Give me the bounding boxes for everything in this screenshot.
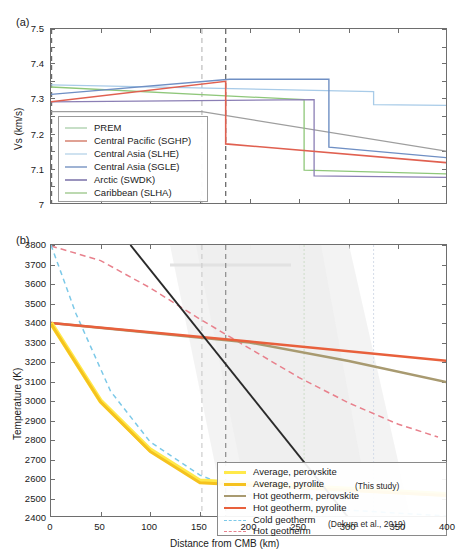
panel-a-ytick-7p2: 7.2 [8, 128, 44, 139]
panel-a-ytick-7: 7 [8, 199, 44, 210]
panel-a-ytick-7p1: 7.1 [8, 163, 44, 174]
legend-b-item-hot-geotherm-pyrolite: Hot geotherm, pyrolite [224, 502, 346, 514]
figure-root: (a) Vs (km/s) 7 7.1 7.2 7.3 7.4 7.5 [0, 0, 457, 557]
panel-b-ytick-3600: 3600 [4, 278, 46, 289]
panel-a-ytick-7p4: 7.4 [8, 58, 44, 69]
panel-b-ytick-2800: 2800 [4, 434, 46, 445]
panel-b-ytick-3800: 3800 [4, 239, 46, 250]
panel-b-ytick-3000: 3000 [4, 395, 46, 406]
panel-a-ytick-7p5: 7.5 [8, 23, 44, 34]
panel-b-ytick-3400: 3400 [4, 317, 46, 328]
panel-b-ytick-3300: 3300 [4, 336, 46, 347]
panel-b-xtick-150: 150 [191, 521, 207, 532]
legend-a-item-central-asia-slhe: Central Asia (SLHE) [65, 148, 179, 160]
legend-b-swatch-average-perovskite [224, 471, 246, 474]
legend-a-label-central-asia-slhe: Central Asia (SLHE) [94, 149, 179, 159]
panel-b-ytick-3500: 3500 [4, 297, 46, 308]
legend-b-swatch-hot-geotherm-pyrolite [224, 507, 246, 509]
panel-b-xtick-100: 100 [141, 521, 157, 532]
legend-b-item-hot-geotherm-perovskite: Hot geotherm, perovskite [224, 490, 359, 502]
panel-b-ytick-2400: 2400 [4, 512, 46, 523]
legend-a-label-caribbean: Caribbean (SLHA) [94, 188, 172, 198]
legend-a-item-arctic: Arctic (SWDK) [65, 174, 155, 186]
legend-a-swatch-caribbean [65, 192, 87, 194]
panel-b-ytick-2600: 2600 [4, 473, 46, 484]
legend-b-label-hot-geotherm-perovskite: Hot geotherm, perovskite [253, 491, 359, 501]
legend-b-swatch-average-pyrolite [224, 483, 246, 486]
panel-b-xtick-300: 300 [340, 521, 356, 532]
legend-a-swatch-central-asia-sgle [65, 166, 87, 168]
panel-b-xtick-250: 250 [290, 521, 306, 532]
panel-b-ytick-2500: 2500 [4, 492, 46, 503]
panel-a-ytick-7p3: 7.3 [8, 93, 44, 104]
panel-b-ytick-3200: 3200 [4, 356, 46, 367]
legend-a-label-arctic: Arctic (SWDK) [94, 175, 155, 185]
panel-b-xtick-350: 350 [389, 521, 405, 532]
legend-a-item-prem: PREM [65, 122, 121, 134]
legend-a-label-prem: PREM [94, 123, 121, 133]
panel-a: (a) Vs (km/s) 7 7.1 7.2 7.3 7.4 7.5 [0, 0, 457, 228]
legend-b-item-average-pyrolite: Average, pyrolite [224, 478, 324, 490]
panel-b-ytick-3100: 3100 [4, 375, 46, 386]
panel-b: (b) Temperature (K) 2400 2500 2600 2700 … [0, 228, 457, 557]
panel-b-ytick-2900: 2900 [4, 414, 46, 425]
legend-a-label-central-pacific: Central Pacific (SGHP) [94, 136, 191, 146]
panel-b-ytick-3700: 3700 [4, 258, 46, 269]
panel-b-xtick-50: 50 [94, 521, 105, 532]
panel-b-xtick-200: 200 [241, 521, 257, 532]
legend-b-label-hot-geotherm-pyrolite: Hot geotherm, pyrolite [253, 503, 346, 513]
panel-b-ytick-2700: 2700 [4, 453, 46, 464]
panel-b-xtick-400: 400 [439, 521, 455, 532]
panel-b-x-axis-title: Distance from CMB (km) [170, 538, 279, 549]
legend-b-label-average-pyrolite: Average, pyrolite [253, 479, 324, 489]
legend-a-item-caribbean: Caribbean (SLHA) [65, 187, 172, 199]
legend-a-item-central-pacific: Central Pacific (SGHP) [65, 135, 191, 147]
legend-b-label-average-perovskite: Average, perovskite [253, 467, 337, 477]
panel-b-xtick-0: 0 [47, 521, 52, 532]
legend-b-swatch-hot-geotherm-perovskite [224, 495, 246, 497]
legend-a-label-central-asia-sgle: Central Asia (SGLE) [94, 162, 180, 172]
legend-a-swatch-central-pacific [65, 140, 87, 142]
legend-b-note-this-study: (This study) [355, 481, 399, 491]
legend-a-item-central-asia-sgle: Central Asia (SGLE) [65, 161, 180, 173]
legend-b-item-average-perovskite: Average, perovskite [224, 466, 337, 478]
panel-a-legend: PREM Central Pacific (SGHP) Central Asia… [58, 116, 208, 202]
legend-a-swatch-arctic [65, 179, 87, 181]
legend-a-swatch-central-asia-slhe [65, 153, 87, 155]
legend-a-swatch-prem [65, 127, 87, 129]
